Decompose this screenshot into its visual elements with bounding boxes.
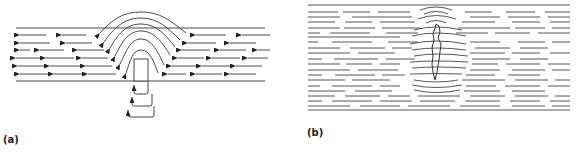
- panel-a-label: (a): [3, 134, 19, 145]
- deflected-lines-around-body: [410, 7, 468, 93]
- left-flow-arrows: [16, 35, 116, 74]
- upwelling-arrows: [128, 82, 154, 117]
- left-dashed-lines: [308, 12, 420, 106]
- figure-canvas: [0, 0, 577, 152]
- elongated-body: [432, 24, 441, 80]
- panel-b-label: (b): [307, 127, 323, 138]
- obstacle-block: [134, 59, 148, 81]
- panel-a-diagram: [16, 12, 270, 117]
- right-flow-arrows: [168, 35, 270, 74]
- panel-b-diagram: [308, 5, 570, 110]
